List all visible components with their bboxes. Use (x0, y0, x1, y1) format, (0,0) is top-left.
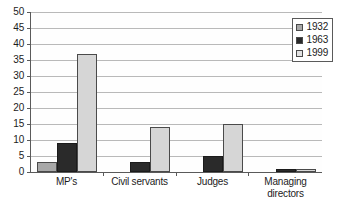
x-axis-label: MP's (30, 176, 103, 200)
y-tick-label: 40 (2, 39, 24, 49)
y-tick-mark (27, 172, 31, 173)
bars-layer (31, 12, 322, 172)
y-tick-label: 25 (2, 87, 24, 97)
legend-swatch-icon (296, 37, 303, 44)
plot-area (30, 12, 322, 173)
x-axis: MP'sCivil servantsJudgesManaging directo… (30, 176, 322, 200)
bar-1932-mp-s (37, 162, 57, 172)
legend-swatch-icon (296, 24, 303, 31)
y-tick-label: 45 (2, 23, 24, 33)
legend-item-label: 1932 (307, 22, 328, 32)
legend-item-label: 1963 (307, 35, 328, 45)
legend-item-1932[interactable]: 1932 (296, 21, 328, 33)
chart-legend: 193219631999 (292, 18, 333, 62)
y-tick-label: 10 (2, 135, 24, 145)
y-tick-label: 5 (2, 151, 24, 161)
legend-item-label: 1999 (307, 48, 328, 58)
legend-swatch-icon (296, 50, 303, 57)
bar-1963-mp-s (57, 143, 77, 172)
y-tick-label: 15 (2, 119, 24, 129)
y-tick-label: 0 (2, 167, 24, 177)
y-tick-label: 50 (2, 7, 24, 17)
y-tick-label: 35 (2, 55, 24, 65)
bar-1999-mp-s (77, 54, 97, 172)
bar-1963-managing-directors (276, 169, 296, 172)
x-axis-label: Civil servants (103, 176, 176, 200)
bar-1963-civil-servants (130, 162, 150, 172)
legend-item-1999[interactable]: 1999 (296, 47, 328, 59)
bar-1999-civil-servants (150, 127, 170, 172)
bar-group (31, 12, 104, 172)
bar-group (177, 12, 250, 172)
bar-chart: 05101520253035404550 MP'sCivil servantsJ… (0, 0, 338, 217)
y-tick-label: 20 (2, 103, 24, 113)
x-axis-label: Managing directors (249, 176, 322, 200)
bar-1999-managing-directors (296, 169, 316, 172)
legend-item-1963[interactable]: 1963 (296, 34, 328, 46)
bar-group (104, 12, 177, 172)
x-axis-label: Judges (176, 176, 249, 200)
y-axis: 05101520253035404550 (2, 0, 24, 217)
bar-1999-judges (223, 124, 243, 172)
y-tick-label: 30 (2, 71, 24, 81)
bar-1963-judges (203, 156, 223, 172)
